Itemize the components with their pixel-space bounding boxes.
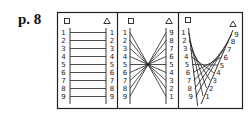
left-scale-label: 7 xyxy=(123,77,127,85)
triangle-icon xyxy=(104,18,110,24)
left-scale-label: 2 xyxy=(61,37,65,45)
right-scale-label: 7 xyxy=(110,77,114,85)
left-scale-label: 4 xyxy=(123,53,128,61)
left-scale-label: 6 xyxy=(61,69,66,77)
square-icon xyxy=(65,19,70,24)
right-scale-label: 6 xyxy=(110,69,115,77)
right-scale-label: 9 xyxy=(169,29,173,37)
left-scale-label: 6 xyxy=(123,69,128,77)
right-scale-label: 6 xyxy=(169,53,174,61)
left-scale-label: 3 xyxy=(61,45,65,53)
left-scale-label: 8 xyxy=(188,85,192,93)
left-scale-label: 1 xyxy=(61,29,65,37)
right-scale-label: 9 xyxy=(110,93,114,101)
right-scale-label: 4 xyxy=(110,53,115,61)
left-scale-label: 5 xyxy=(61,61,65,69)
left-scale-label: 4 xyxy=(61,53,66,61)
right-scale-label: 3 xyxy=(110,45,114,53)
left-scale-label: 3 xyxy=(183,45,187,53)
left-scale-label: 5 xyxy=(185,61,189,69)
right-scale-label: 5 xyxy=(169,61,173,69)
square-icon xyxy=(186,18,191,23)
square-icon xyxy=(129,19,134,24)
left-scale-label: 5 xyxy=(123,61,127,69)
right-scale-label: 3 xyxy=(169,77,173,85)
left-scale-label: 3 xyxy=(123,45,127,53)
left-scale-label: 8 xyxy=(61,85,65,93)
left-scale-label: 7 xyxy=(187,77,191,85)
left-scale-label: 8 xyxy=(123,85,127,93)
right-scale-label: 8 xyxy=(169,37,173,45)
nomogram-diagram: 1122334455667788991928374655647382911928… xyxy=(0,0,252,114)
right-scale-label: 4 xyxy=(169,69,174,77)
right-scale-label: 1 xyxy=(205,93,209,101)
left-scale-label: 9 xyxy=(61,93,65,101)
left-scale-label: 4 xyxy=(184,53,189,61)
left-scale-label: 1 xyxy=(181,29,185,37)
left-scale-label: 6 xyxy=(186,69,191,77)
left-scale-label: 2 xyxy=(123,37,127,45)
right-scale-label: 5 xyxy=(110,61,114,69)
triangle-icon xyxy=(166,18,172,24)
right-scale-label: 7 xyxy=(169,45,173,53)
right-scale-label: 1 xyxy=(169,93,173,101)
triangle-icon xyxy=(230,21,236,27)
right-scale-label: 2 xyxy=(110,37,114,45)
right-scale-label: 8 xyxy=(110,85,114,93)
left-scale-label: 2 xyxy=(182,37,186,45)
left-scale-label: 9 xyxy=(123,93,127,101)
left-scale-label: 9 xyxy=(188,93,192,101)
left-scale-label: 1 xyxy=(123,29,127,37)
left-scale-label: 7 xyxy=(61,77,65,85)
right-scale-label: 2 xyxy=(169,85,173,93)
right-scale-label: 1 xyxy=(110,29,114,37)
